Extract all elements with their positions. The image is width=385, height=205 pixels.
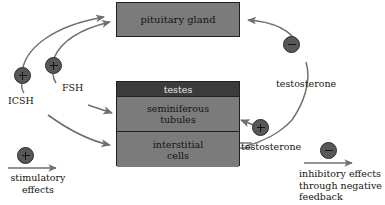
arrow-icsh-to-pituitary — [23, 17, 104, 67]
seminiferous-tubules-band: seminiferous tubules — [117, 97, 239, 132]
testosterone-local-label: testosterone — [241, 141, 301, 152]
plus-vertical-stroke — [25, 152, 27, 160]
stub-icsh — [22, 84, 24, 93]
seminiferous-tubules-line1: seminiferous — [147, 103, 209, 114]
icsh-label: ICSH — [8, 95, 34, 106]
fsh-label: FSH — [62, 82, 83, 93]
pituitary-gland-box: pituitary gland — [116, 2, 240, 37]
plus-icon-fsh — [45, 57, 62, 74]
minus-icon-legend-inhibitory — [320, 142, 337, 159]
minus-horizontal-stroke — [325, 150, 333, 152]
arrow-icsh-to-interstitial — [48, 115, 110, 145]
plus-icon-icsh — [14, 67, 31, 84]
interstitial-cells-line1: interstitial — [153, 139, 203, 150]
legend-inhibitory-line1: inhibitory effects — [299, 168, 381, 179]
plus-icon-testosterone-local — [252, 119, 269, 136]
legend-stimulatory-line2: effects — [22, 184, 54, 195]
minus-horizontal-stroke — [288, 44, 296, 46]
plus-vertical-stroke — [22, 72, 24, 80]
testes-box: testes seminiferous tubules interstitial… — [116, 81, 240, 166]
legend-inhibitory-text: inhibitory effects through negative feed… — [299, 168, 385, 203]
interstitial-cells-label: interstitial cells — [153, 139, 203, 161]
legend-inhibitory-line2: through negative — [299, 180, 382, 191]
testosterone-feedback-label: testosterone — [276, 78, 336, 89]
testes-label: testes — [164, 84, 193, 95]
arrow-fsh-to-seminiferous — [88, 105, 112, 113]
plus-vertical-stroke — [53, 62, 55, 70]
seminiferous-tubules-line2: tubules — [160, 114, 196, 125]
minus-icon-testosterone-feedback — [283, 36, 300, 53]
testes-band: testes — [117, 82, 239, 97]
plus-icon-legend-stimulatory — [17, 147, 34, 164]
plus-vertical-stroke — [260, 124, 262, 132]
arrow-testosterone-negative-feedback — [292, 62, 308, 120]
interstitial-cells-line2: cells — [167, 150, 189, 161]
legend-stimulatory-text: stimulatory effects — [2, 172, 74, 195]
interstitial-cells-band: interstitial cells — [117, 132, 239, 167]
diagram-canvas: pituitary gland testes seminiferous tubu… — [0, 0, 385, 205]
stub-fsh — [53, 74, 56, 83]
legend-inhibitory-line3: feedback — [299, 191, 343, 202]
legend-stimulatory-line1: stimulatory — [10, 172, 65, 183]
arrow-fsh-to-pituitary — [54, 22, 110, 58]
pituitary-gland-label: pituitary gland — [117, 3, 239, 36]
seminiferous-tubules-label: seminiferous tubules — [147, 103, 209, 125]
